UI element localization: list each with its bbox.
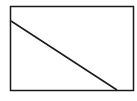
diagonal-line (11, 21, 117, 90)
diagram-canvas (0, 0, 137, 101)
outer-rectangle (11, 7, 134, 91)
